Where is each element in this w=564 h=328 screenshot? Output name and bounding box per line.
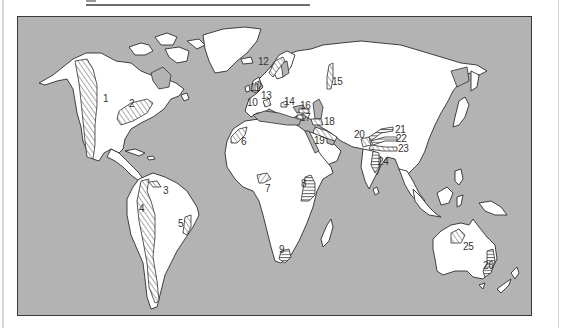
region-label-13: 13 (261, 91, 272, 101)
region-label-26: 26 (483, 261, 494, 271)
new-guinea (479, 201, 507, 215)
region-18 (311, 119, 323, 125)
japan (453, 97, 469, 127)
region-label-7: 7 (265, 184, 270, 194)
top-rule-stub (86, 0, 96, 2)
borneo (437, 187, 453, 205)
sulawesi (457, 195, 463, 207)
region-label-14: 14 (284, 97, 295, 107)
left-edge-line (2, 0, 4, 328)
region-label-17: 17 (300, 113, 311, 123)
land-masses (39, 27, 519, 309)
right-edge-line (558, 0, 559, 328)
world-map: 1 2 3 4 5 6 7 8 9 10 11 12 13 14 15 16 1… (17, 16, 532, 316)
region-label-15: 15 (332, 77, 343, 87)
region-label-9: 9 (279, 245, 284, 255)
region-label-6: 6 (241, 137, 246, 147)
map-graphics (18, 17, 531, 315)
sri-lanka (373, 187, 379, 195)
region-label-12: 12 (258, 57, 269, 67)
region-label-18: 18 (324, 117, 335, 127)
region-label-25: 25 (463, 242, 474, 252)
madagascar (321, 219, 333, 247)
top-rule (86, 4, 310, 6)
region-label-3: 3 (163, 186, 168, 196)
region-label-19: 19 (314, 136, 325, 146)
greenland (203, 27, 261, 73)
iceland (241, 57, 253, 64)
region-label-10: 10 (247, 98, 258, 108)
tasmania (479, 283, 485, 289)
region-label-2: 2 (129, 99, 134, 109)
philippines (455, 169, 463, 185)
region-label-24: 24 (378, 157, 389, 167)
region-label-4: 4 (139, 204, 144, 214)
region-label-8: 8 (301, 179, 306, 189)
region-label-16: 16 (300, 101, 311, 111)
region-label-1: 1 (103, 94, 108, 104)
region-label-11: 11 (250, 83, 260, 93)
newfoundland (181, 93, 189, 101)
new-zealand (497, 267, 519, 293)
caribbean (125, 149, 155, 160)
region-label-23: 23 (398, 144, 409, 154)
sakhalin (471, 71, 479, 91)
region-label-20: 20 (354, 130, 365, 140)
arctic-islands (129, 33, 205, 63)
region-label-5: 5 (178, 219, 183, 229)
